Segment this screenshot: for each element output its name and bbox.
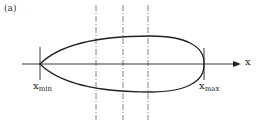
xmax-label-base: x [199, 80, 205, 91]
xmax-label-sub: max [205, 85, 220, 93]
x-axis-arrowhead [233, 61, 241, 67]
xmax-label: xmax [199, 80, 219, 91]
xmin-label-base: x [33, 80, 39, 91]
diagram-canvas [0, 0, 262, 122]
xmin-label-sub: min [39, 85, 52, 93]
teardrop-diagram: (a) x xmin xmax [0, 0, 262, 122]
panel-label: (a) [4, 3, 16, 13]
x-axis-label: x [245, 56, 251, 67]
xmin-label: xmin [33, 80, 52, 91]
